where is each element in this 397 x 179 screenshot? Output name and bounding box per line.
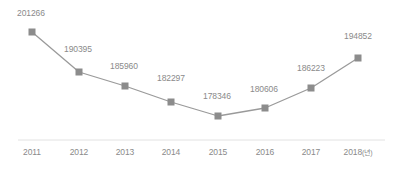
data-point-marker xyxy=(355,55,362,62)
x-axis-tick-label: 2014 xyxy=(162,148,181,157)
x-axis-tick-label: 2016 xyxy=(256,148,275,157)
data-point-marker xyxy=(215,113,222,120)
x-axis-tick-label: 2017 xyxy=(302,148,321,157)
data-point-marker xyxy=(29,29,36,36)
data-point-marker xyxy=(262,105,269,112)
x-axis-tick-label: 2011 xyxy=(23,148,41,157)
x-axis-unit-note: (년) xyxy=(362,149,372,156)
series-markers xyxy=(29,29,362,120)
data-point-marker xyxy=(168,99,175,106)
data-point-value-label: 180606 xyxy=(250,85,278,94)
data-point-value-label: 186223 xyxy=(297,64,325,73)
data-point-value-label: 194852 xyxy=(344,32,372,41)
x-axis-tick-label: 2015 xyxy=(209,148,228,157)
data-point-value-label: 201266 xyxy=(17,9,45,18)
data-point-marker xyxy=(122,83,129,90)
data-point-value-label: 182297 xyxy=(157,74,185,83)
x-axis-tick-label: 2012 xyxy=(70,148,89,157)
chart-plot-area xyxy=(0,0,397,179)
line-chart: 2012661903951859601822971783461806061862… xyxy=(0,0,397,179)
data-point-value-label: 185960 xyxy=(110,62,138,71)
data-point-marker xyxy=(308,85,315,92)
data-point-value-label: 178346 xyxy=(203,92,231,101)
x-axis-tick-label: 2013 xyxy=(116,148,135,157)
x-axis-tick-label: 2018(년) xyxy=(344,148,373,157)
data-point-marker xyxy=(76,69,83,76)
data-point-value-label: 190395 xyxy=(64,45,92,54)
